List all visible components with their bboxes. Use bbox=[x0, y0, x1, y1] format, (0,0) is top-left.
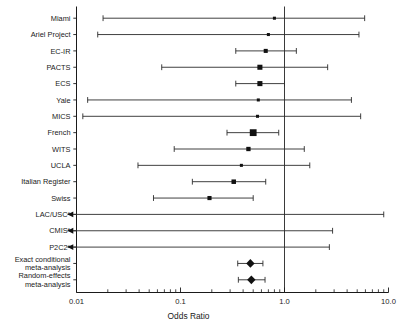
summary-diamond-marker bbox=[247, 275, 255, 284]
study-label: MICS bbox=[52, 112, 71, 121]
study-row bbox=[68, 244, 330, 250]
study-row bbox=[83, 113, 361, 119]
study-row bbox=[68, 212, 384, 218]
summary-diamond-marker bbox=[246, 259, 254, 268]
study-point-estimate-marker bbox=[264, 49, 268, 53]
study-point-estimate-marker bbox=[207, 196, 211, 200]
study-label: EC-IR bbox=[50, 47, 70, 56]
forest-plot-canvas: 0.010.11.010.0Odds RatioMiamiAriel Proje… bbox=[0, 0, 402, 326]
x-axis-tick-label: 1.0 bbox=[279, 297, 290, 306]
study-label: Ariel Project bbox=[31, 30, 71, 39]
study-point-estimate-marker bbox=[273, 17, 276, 20]
study-point-estimate-marker bbox=[240, 164, 243, 167]
study-label: Italian Register bbox=[21, 177, 71, 186]
study-point-estimate-marker bbox=[256, 115, 259, 118]
forest-plot: 0.010.11.010.0Odds RatioMiamiAriel Proje… bbox=[0, 0, 402, 326]
x-axis-title: Odds Ratio bbox=[168, 311, 210, 321]
study-row bbox=[153, 195, 253, 201]
study-point-estimate-marker bbox=[267, 33, 270, 36]
study-label: French bbox=[47, 128, 70, 137]
x-axis-tick-label: 0.01 bbox=[69, 297, 84, 306]
study-row bbox=[103, 15, 365, 21]
x-axis-tick-label: 0.1 bbox=[175, 297, 186, 306]
study-label: Miami bbox=[51, 14, 71, 23]
study-row bbox=[68, 228, 333, 234]
study-label: WITS bbox=[52, 145, 71, 154]
study-row bbox=[192, 179, 265, 185]
study-point-estimate-marker bbox=[257, 81, 262, 86]
summary-row bbox=[238, 275, 265, 284]
study-row bbox=[236, 81, 285, 87]
study-row bbox=[162, 64, 328, 70]
study-point-estimate-marker bbox=[250, 129, 257, 136]
study-label: UCLA bbox=[51, 161, 71, 170]
study-point-estimate-marker bbox=[257, 98, 260, 101]
study-row bbox=[227, 129, 279, 136]
study-label: PACTS bbox=[46, 63, 70, 72]
x-axis-tick-label: 10.0 bbox=[381, 297, 396, 306]
summary-row bbox=[238, 259, 263, 268]
study-point-estimate-marker bbox=[246, 147, 250, 151]
study-label: ECS bbox=[55, 79, 70, 88]
study-label: CMIS* bbox=[49, 226, 70, 235]
study-row bbox=[236, 48, 297, 54]
study-label: LAC/USC* bbox=[36, 210, 71, 219]
study-point-estimate-marker bbox=[257, 65, 262, 70]
study-point-estimate-marker bbox=[231, 179, 236, 184]
study-row bbox=[98, 32, 359, 38]
study-row bbox=[88, 97, 352, 103]
summary-label-line: meta-analysis bbox=[25, 280, 71, 289]
study-label: Yale bbox=[56, 96, 70, 105]
study-label: P2C2* bbox=[49, 243, 70, 252]
study-label: Swiss bbox=[51, 194, 71, 203]
